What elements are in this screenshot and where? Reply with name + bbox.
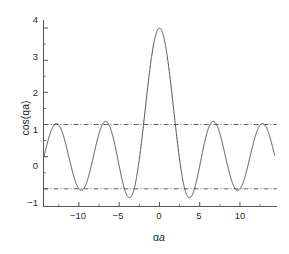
y-tick-label-4: 4 bbox=[28, 15, 38, 25]
x-axis-label: αa bbox=[153, 232, 165, 243]
chart-figure: −10 −5 0 5 10 4 3 2 1 0 −1 αa cos(qa) bbox=[0, 0, 289, 254]
x-tick-label-neg5: −5 bbox=[113, 211, 124, 221]
x-tick-label-5: 5 bbox=[196, 211, 201, 221]
y-tick-label-neg1: −1 bbox=[24, 198, 38, 208]
y-tick-label-0: 0 bbox=[28, 161, 38, 171]
x-tick-label-0: 0 bbox=[156, 211, 161, 221]
x-tick-label-neg10: −10 bbox=[70, 211, 86, 221]
x-tick-label-10: 10 bbox=[235, 211, 246, 221]
y-tick-label-3: 3 bbox=[28, 52, 38, 62]
x-axis-label-a: a bbox=[159, 231, 165, 243]
y-axis-label: cos(qa) bbox=[20, 100, 31, 135]
plot-canvas bbox=[0, 0, 289, 254]
y-tick-label-2: 2 bbox=[28, 88, 38, 98]
